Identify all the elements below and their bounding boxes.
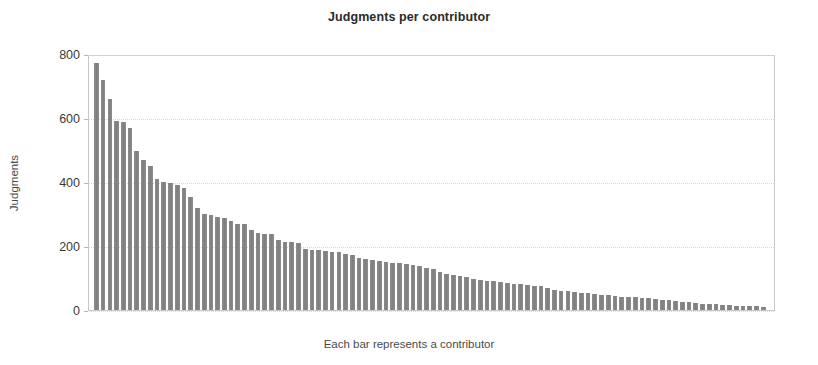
bar	[707, 304, 712, 310]
bar	[552, 290, 557, 310]
bar	[182, 188, 187, 310]
bar	[411, 265, 416, 310]
bar	[215, 217, 220, 310]
bar	[491, 281, 496, 310]
bar	[343, 254, 348, 310]
bar	[424, 268, 429, 310]
bar	[566, 291, 571, 310]
bar	[673, 301, 678, 310]
bar	[458, 276, 463, 310]
y-tick-label: 400	[59, 176, 80, 190]
bar	[727, 305, 732, 310]
bar	[229, 221, 234, 310]
bar	[310, 250, 315, 310]
bar	[384, 262, 389, 310]
bar	[613, 296, 618, 310]
bar	[148, 166, 153, 310]
bar	[505, 283, 510, 310]
bar	[168, 183, 173, 310]
bar	[532, 286, 537, 310]
bar	[438, 272, 443, 310]
bar	[303, 249, 308, 310]
bar	[222, 218, 227, 310]
chart-figure: Judgments per contributor Judgments 0200…	[0, 0, 818, 365]
bar	[498, 282, 503, 310]
bar	[209, 215, 214, 310]
bar	[579, 293, 584, 310]
bar	[633, 297, 638, 310]
bar	[687, 302, 692, 310]
bar	[512, 284, 517, 310]
gridline	[89, 311, 774, 312]
bar	[262, 234, 267, 310]
bar	[350, 255, 355, 310]
bar	[269, 234, 274, 310]
bar	[640, 298, 645, 310]
bar	[572, 292, 577, 310]
bar	[693, 303, 698, 310]
bar	[619, 297, 624, 310]
bar	[175, 185, 180, 310]
bar	[202, 214, 207, 310]
bars-series	[89, 56, 774, 310]
bar	[249, 230, 254, 310]
bar	[660, 300, 665, 310]
bar	[525, 285, 530, 310]
bar	[155, 179, 160, 310]
y-tick-label: 0	[73, 304, 80, 318]
bar	[404, 264, 409, 310]
bar	[464, 277, 469, 310]
y-tick-label: 800	[59, 48, 80, 62]
bar	[720, 305, 725, 310]
bar	[606, 295, 611, 310]
bar	[316, 250, 321, 310]
bar	[114, 121, 119, 310]
bar	[539, 286, 544, 310]
bar	[754, 306, 759, 310]
bar	[680, 302, 685, 310]
x-axis-title: Each bar represents a contributor	[0, 338, 818, 350]
bar	[330, 252, 335, 310]
bar	[377, 261, 382, 310]
bar	[714, 304, 719, 310]
bar	[141, 160, 146, 310]
y-tick-mark	[84, 311, 88, 312]
bar	[700, 304, 705, 310]
bar	[134, 151, 139, 310]
bar	[101, 80, 106, 310]
bar	[545, 288, 550, 310]
y-axis: 0200400600800	[0, 0, 88, 365]
y-tick-label: 600	[59, 112, 80, 126]
bar	[667, 300, 672, 310]
bar	[235, 224, 240, 310]
bar	[444, 274, 449, 310]
bar	[741, 306, 746, 310]
bar	[370, 260, 375, 310]
bar	[323, 251, 328, 310]
bar	[357, 258, 362, 310]
bar	[195, 208, 200, 310]
bar	[242, 224, 247, 310]
bar	[94, 63, 99, 310]
bar	[747, 306, 752, 310]
bar	[390, 263, 395, 310]
bar	[451, 275, 456, 310]
bar	[417, 266, 422, 310]
bar	[128, 128, 133, 310]
bar	[188, 197, 193, 310]
bar	[276, 240, 281, 310]
bar	[289, 242, 294, 310]
plot-area	[88, 55, 775, 311]
bar	[283, 242, 288, 310]
bar	[337, 252, 342, 310]
chart-title: Judgments per contributor	[0, 10, 818, 24]
bar	[586, 293, 591, 310]
bar	[518, 284, 523, 310]
bar	[363, 259, 368, 310]
bar	[478, 280, 483, 310]
bar	[761, 307, 766, 310]
bar	[559, 291, 564, 310]
bar	[653, 299, 658, 310]
bar	[121, 122, 126, 310]
bar	[485, 281, 490, 310]
